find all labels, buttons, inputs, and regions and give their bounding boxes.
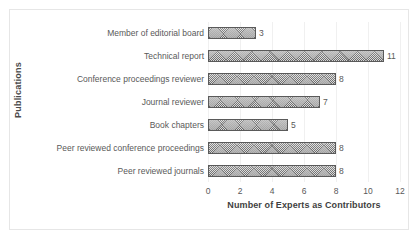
- x-axis-tick-label: 12: [395, 186, 404, 196]
- category-label: Book chapters: [150, 120, 204, 130]
- category-label: Peer reviewed journals: [118, 166, 204, 176]
- x-axis-tick-label: 8: [334, 186, 339, 196]
- bar-row: Peer reviewed journals8: [208, 159, 400, 182]
- bar-value-label: 3: [259, 28, 264, 38]
- bar: 8: [208, 73, 336, 85]
- x-axis-tick-label: 6: [302, 186, 307, 196]
- category-label: Journal reviewer: [142, 97, 204, 107]
- x-axis-tick-label: 4: [270, 186, 275, 196]
- bar-row: Journal reviewer7: [208, 91, 400, 114]
- x-axis-tick-label: 2: [238, 186, 243, 196]
- bar: 8: [208, 165, 336, 177]
- bar-value-label: 7: [323, 97, 328, 107]
- bar: 11: [208, 50, 384, 62]
- y-axis-title: Publications: [13, 50, 23, 130]
- bar-row: Peer reviewed conference proceedings8: [208, 136, 400, 159]
- category-label: Peer reviewed conference proceedings: [57, 143, 204, 153]
- plot-area: Member of editorial board3Technical repo…: [208, 22, 400, 182]
- bar-value-label: 8: [339, 166, 344, 176]
- bar: 5: [208, 119, 288, 131]
- category-label: Member of editorial board: [107, 28, 204, 38]
- gridline: [400, 22, 401, 182]
- category-label: Conference proceedings reviewer: [77, 74, 204, 84]
- category-label: Technical report: [144, 51, 204, 61]
- bar-value-label: 5: [291, 120, 296, 130]
- x-axis-tick-label: 0: [206, 186, 211, 196]
- bar: 3: [208, 27, 256, 39]
- bar-row: Member of editorial board3: [208, 22, 400, 45]
- bar-value-label: 11: [387, 51, 396, 61]
- bar-chart-figure: Publications Member of editorial board3T…: [0, 0, 418, 246]
- x-axis-tick-label: 10: [363, 186, 372, 196]
- bar-row: Book chapters5: [208, 113, 400, 136]
- bar-row: Technical report11: [208, 45, 400, 68]
- x-axis-title: Number of Experts as Contributors: [208, 200, 400, 210]
- bar-value-label: 8: [339, 74, 344, 84]
- bar-row: Conference proceedings reviewer8: [208, 68, 400, 91]
- bar: 8: [208, 142, 336, 154]
- bar-value-label: 8: [339, 143, 344, 153]
- bar: 7: [208, 96, 320, 108]
